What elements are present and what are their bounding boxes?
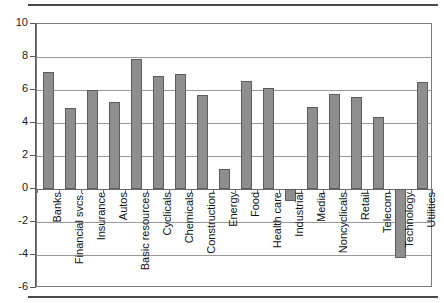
chart-figure: 1086420-2-4-6 BanksFinancial svcs.Insura… xyxy=(0,0,444,303)
category-label: Media xyxy=(316,192,327,222)
bar xyxy=(175,74,186,190)
gridline xyxy=(37,57,431,58)
bar xyxy=(307,107,318,189)
bar xyxy=(43,72,54,189)
bottom-rule xyxy=(28,296,438,298)
bar xyxy=(87,90,98,189)
y-axis-tick-label: 8 xyxy=(2,50,28,61)
bar xyxy=(65,108,76,189)
category-label: Utilities xyxy=(426,192,437,227)
y-axis-tick xyxy=(30,287,36,288)
category-label: Basic resources xyxy=(140,192,151,270)
y-axis-labels: 1086420-2-4-6 xyxy=(0,0,28,303)
category-label: Health care xyxy=(272,192,283,248)
y-axis-tick-label: -2 xyxy=(2,215,28,226)
zero-axis-line xyxy=(37,189,431,190)
category-label: Construction xyxy=(206,192,217,254)
top-rule xyxy=(28,4,438,6)
bar xyxy=(241,81,252,189)
bar xyxy=(417,82,428,189)
bar xyxy=(373,117,384,189)
y-axis-tick-label: -6 xyxy=(2,281,28,292)
bar xyxy=(197,95,208,189)
category-label: Telecom xyxy=(382,192,393,233)
bar xyxy=(351,97,362,189)
bar xyxy=(109,102,120,189)
plot-area xyxy=(36,23,432,287)
y-axis-tick-label: -4 xyxy=(2,248,28,259)
category-label: Cyclicals xyxy=(162,192,173,235)
bar xyxy=(329,94,340,189)
y-axis-tick-label: 2 xyxy=(2,149,28,160)
gridline xyxy=(37,255,431,256)
y-axis-tick-label: 6 xyxy=(2,83,28,94)
y-axis-tick-label: 0 xyxy=(2,182,28,193)
bar xyxy=(131,59,142,189)
category-label: Chemicals xyxy=(184,192,195,243)
category-label: Banks xyxy=(52,192,63,223)
category-label: Technology xyxy=(404,192,415,248)
category-label: Financial svcs. xyxy=(74,192,85,264)
x-axis-tick xyxy=(37,189,38,193)
category-label: Industrial xyxy=(294,192,305,237)
y-axis-tick-label: 10 xyxy=(2,17,28,28)
category-label: Noncyclicals xyxy=(338,192,349,253)
y-axis-tick-label: 4 xyxy=(2,116,28,127)
bar xyxy=(153,76,164,189)
category-label: Food xyxy=(250,192,261,217)
category-label: Retail xyxy=(360,192,371,220)
category-label: Energy xyxy=(228,192,239,227)
bar xyxy=(219,169,230,189)
bar xyxy=(263,88,274,189)
category-label: Autos xyxy=(118,192,129,220)
category-label: Insurance xyxy=(96,192,107,240)
